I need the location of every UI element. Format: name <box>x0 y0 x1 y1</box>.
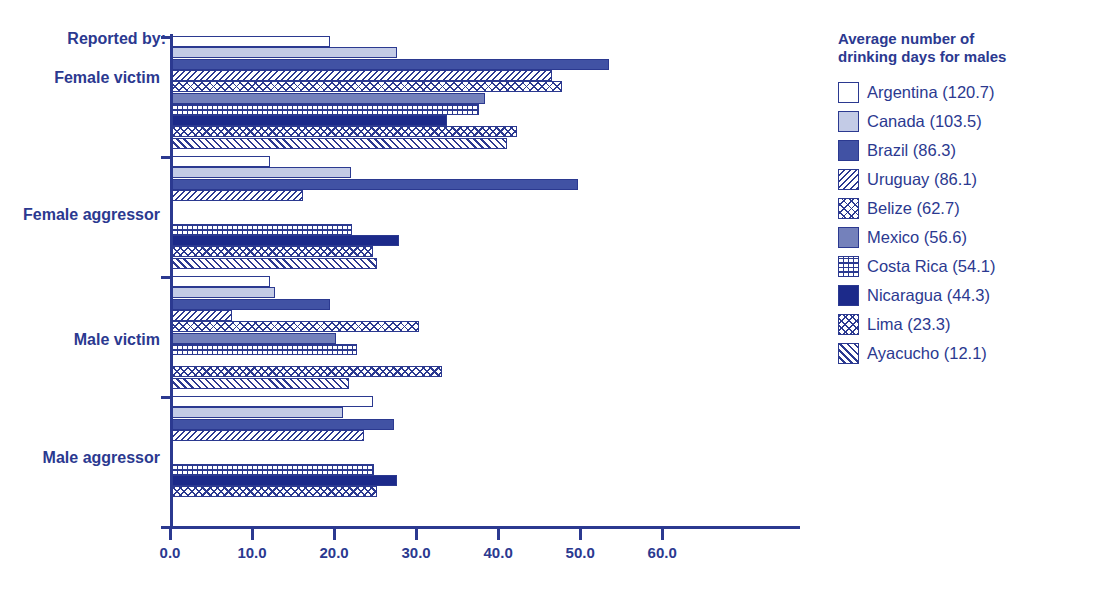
legend-swatch <box>838 227 859 248</box>
x-axis-tick <box>251 529 254 540</box>
category-label: Male victim <box>10 330 160 349</box>
bar <box>172 486 377 497</box>
bar <box>172 333 336 344</box>
chart-title <box>46 0 806 6</box>
reported-by-label: Reported by: <box>26 30 166 48</box>
bar <box>172 59 609 70</box>
x-axis-tick <box>415 529 418 540</box>
bar <box>172 156 270 167</box>
legend-swatch <box>838 256 859 277</box>
bar <box>172 276 270 287</box>
legend-swatch <box>838 111 859 132</box>
x-axis-tick <box>333 529 336 540</box>
bar <box>172 36 330 47</box>
legend-swatch <box>838 198 859 219</box>
legend-swatch <box>838 314 859 335</box>
bar <box>172 246 373 257</box>
bar <box>172 321 419 332</box>
x-axis-tick-label: 10.0 <box>237 544 266 561</box>
legend-item-label: Lima (23.3) <box>867 315 950 334</box>
legend-item-label: Ayacucho (12.1) <box>867 344 987 363</box>
legend-item-label: Uruguay (86.1) <box>867 170 977 189</box>
bar <box>172 464 374 475</box>
y-axis-tick <box>161 36 171 39</box>
legend-item[interactable]: Costa Rica (54.1) <box>838 252 1088 281</box>
x-axis-tick-label: 30.0 <box>401 544 430 561</box>
legend-item-label: Canada (103.5) <box>867 112 982 131</box>
legend-item-label: Costa Rica (54.1) <box>867 257 995 276</box>
bar <box>172 190 303 201</box>
category-label: Female victim <box>10 68 160 87</box>
legend-item[interactable]: Uruguay (86.1) <box>838 165 1088 194</box>
bar <box>172 299 330 310</box>
category-label: Male aggressor <box>10 448 160 467</box>
chart-legend: Average number of drinking days for male… <box>838 30 1088 368</box>
bar <box>172 138 507 149</box>
legend-item-label: Mexico (56.6) <box>867 228 967 247</box>
legend-items: Argentina (120.7)Canada (103.5)Brazil (8… <box>838 78 1088 368</box>
bar <box>172 93 485 104</box>
bar <box>172 366 442 377</box>
legend-item[interactable]: Lima (23.3) <box>838 310 1088 339</box>
bar <box>172 475 397 486</box>
bar <box>172 104 479 115</box>
legend-swatch <box>838 169 859 190</box>
y-axis-tick <box>161 156 171 159</box>
x-axis-tick-label: 0.0 <box>160 544 181 561</box>
bar <box>172 430 364 441</box>
plot-area: 0.010.020.030.040.050.060.0 <box>170 34 800 526</box>
category-label: Female aggressor <box>10 205 160 224</box>
legend-item-label: Brazil (86.3) <box>867 141 956 160</box>
x-axis-tick <box>579 529 582 540</box>
bar <box>172 344 357 355</box>
bar <box>172 70 552 81</box>
bar <box>172 47 397 58</box>
legend-item-label: Nicaragua (44.3) <box>867 286 990 305</box>
bar <box>172 396 373 407</box>
legend-swatch <box>838 82 859 103</box>
legend-item[interactable]: Belize (62.7) <box>838 194 1088 223</box>
x-axis-tick-label: 50.0 <box>566 544 595 561</box>
bar <box>172 258 377 269</box>
x-axis-tick <box>169 529 172 540</box>
legend-item[interactable]: Brazil (86.3) <box>838 136 1088 165</box>
bar <box>172 167 351 178</box>
bar <box>172 235 399 246</box>
legend-item-label: Argentina (120.7) <box>867 83 995 102</box>
legend-title: Average number of drinking days for male… <box>838 30 1088 66</box>
legend-item[interactable]: Ayacucho (12.1) <box>838 339 1088 368</box>
legend-swatch <box>838 285 859 306</box>
legend-item[interactable]: Canada (103.5) <box>838 107 1088 136</box>
legend-swatch <box>838 343 859 364</box>
legend-item-label: Belize (62.7) <box>867 199 960 218</box>
bar-chart: Reported by: 0.010.020.030.040.050.060.0… <box>0 0 1102 606</box>
x-axis-tick-label: 40.0 <box>484 544 513 561</box>
bar <box>172 224 352 235</box>
x-axis-line <box>170 526 800 529</box>
bar <box>172 126 517 137</box>
y-axis-tick <box>161 396 171 399</box>
bar <box>172 287 275 298</box>
bar <box>172 81 562 92</box>
legend-item[interactable]: Nicaragua (44.3) <box>838 281 1088 310</box>
bar <box>172 378 349 389</box>
bar <box>172 310 232 321</box>
x-axis-tick <box>661 529 664 540</box>
y-axis-tick <box>161 276 171 279</box>
bar <box>172 407 343 418</box>
x-axis-tick <box>497 529 500 540</box>
bar <box>172 179 578 190</box>
legend-swatch <box>838 140 859 161</box>
legend-item[interactable]: Argentina (120.7) <box>838 78 1088 107</box>
x-axis-tick-label: 20.0 <box>319 544 348 561</box>
bar <box>172 115 447 126</box>
x-axis-tick-label: 60.0 <box>648 544 677 561</box>
legend-item[interactable]: Mexico (56.6) <box>838 223 1088 252</box>
bar <box>172 419 394 430</box>
